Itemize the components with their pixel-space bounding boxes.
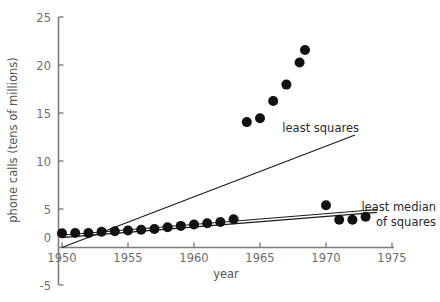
least-median-label-line2: of squares [376,215,436,229]
least-median-label-line1: least median [361,200,436,214]
chart-canvas: 25 20 15 10 5 0 -5 1950 1955 1960 1965 1… [0,0,440,302]
data-point-outlier [300,45,310,55]
x-tick-label-1970: 1970 [311,251,340,265]
data-point [189,220,199,230]
data-point [334,215,344,225]
data-point [136,225,146,235]
data-point-outlier [295,58,305,68]
y-tick-label-10: 10 [36,155,51,169]
data-point [176,221,186,231]
data-point [57,228,67,238]
x-tick-label-1960: 1960 [179,251,208,265]
data-point [97,227,107,237]
data-point-outlier [255,113,265,123]
x-tick-label-1975: 1975 [377,251,406,265]
data-point [123,226,133,236]
data-point-outlier [321,200,331,210]
data-points [57,45,371,238]
data-point [215,217,225,227]
data-point [229,214,239,224]
data-point-outlier [281,80,291,90]
x-tick-label-1965: 1965 [245,251,274,265]
y-axis-title: phone calls (tens of millions) [6,57,20,223]
y-tick-label-5: 5 [44,203,51,217]
x-axis [59,243,395,248]
least-squares-annotation: least squares [282,121,359,135]
least-median-of-squares-annotation: least median of squares [361,200,436,229]
y-tick-label-20: 20 [36,59,51,73]
y-tick-label-0: 0 [44,231,51,245]
data-point [110,226,120,236]
data-point [202,218,212,228]
data-point [70,228,80,238]
x-tick-label-1955: 1955 [113,251,142,265]
data-point [163,222,173,232]
y-tick-label-15: 15 [36,107,51,121]
y-tick-label-25: 25 [36,11,51,25]
data-point [149,224,159,234]
y-tick-label-minus5: -5 [40,279,51,293]
chart-figure: 25 20 15 10 5 0 -5 1950 1955 1960 1965 1… [0,0,440,302]
data-point-outlier [268,96,278,106]
x-axis-title: year [213,267,239,281]
data-point-outlier [242,117,252,127]
data-point [347,215,357,225]
data-point [83,228,93,238]
x-tick-labels: 1950 1955 1960 1965 1970 1975 [47,251,406,265]
x-tick-label-1950: 1950 [47,251,76,265]
least-squares-label: least squares [282,121,359,135]
y-axis [59,17,64,285]
